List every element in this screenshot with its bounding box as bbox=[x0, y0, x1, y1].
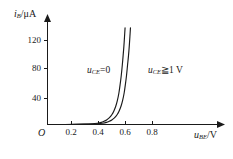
x-axis-unit: /V bbox=[207, 129, 217, 140]
x-tick-label-0.6: 0.6 bbox=[114, 128, 136, 137]
y-axis-unit: /μA bbox=[21, 8, 36, 19]
y-axis bbox=[44, 14, 51, 125]
y-tick-label-120: 120 bbox=[19, 36, 41, 45]
x-axis-subscript: BE bbox=[199, 133, 207, 140]
x-tick-label-0.4: 0.4 bbox=[87, 128, 109, 137]
y-axis-title: iB/μA bbox=[14, 9, 36, 20]
annotation-left-relation: =0 bbox=[100, 65, 110, 75]
annotation-right-subscript: CE bbox=[153, 68, 161, 75]
curve-u_CE=0 bbox=[48, 28, 126, 125]
transistor-input-characteristic-figure: iB/μA uBE/V O 120 80 40 0.2 0.4 0.6 0.8 … bbox=[0, 0, 233, 159]
y-tick-marks bbox=[44, 41, 48, 99]
origin-label: O bbox=[38, 128, 45, 138]
curve-annotation-uce-zero: uCE=0 bbox=[87, 66, 110, 76]
y-tick-label-40: 40 bbox=[19, 94, 41, 103]
x-tick-label-0.2: 0.2 bbox=[60, 128, 82, 137]
data-curves bbox=[48, 28, 131, 125]
y-tick-label-80: 80 bbox=[19, 64, 41, 73]
curve-annotation-uce-ge-1v: uCE≧1 V bbox=[148, 66, 183, 76]
x-tick-label-0.8: 0.8 bbox=[141, 128, 163, 137]
x-axis-title: uBE/V bbox=[194, 130, 217, 141]
annotation-left-subscript: CE bbox=[92, 68, 100, 75]
annotation-right-relation: ≧1 V bbox=[161, 65, 183, 75]
curve-u_CE>=1V bbox=[48, 28, 131, 125]
